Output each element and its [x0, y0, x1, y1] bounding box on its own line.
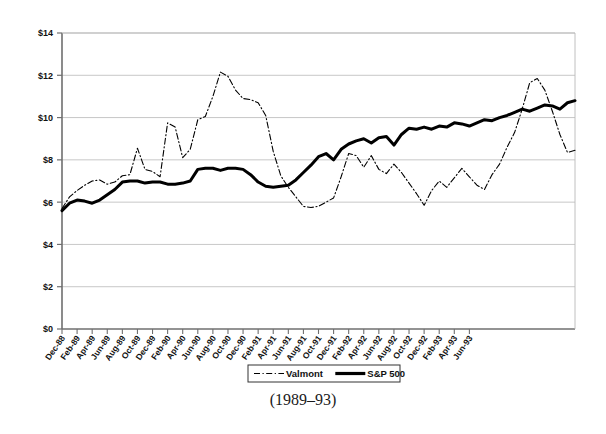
gridlines [62, 33, 575, 287]
series-line-valmont [62, 72, 575, 208]
series-line-s-p-500 [62, 101, 575, 211]
y-tick-label: $10 [38, 113, 53, 123]
data-series [62, 72, 575, 210]
x-axis-ticks: Dec-88Feb-89Apr-89Jun-89Aug-89Oct-89Dec-… [43, 329, 475, 363]
chart-figure: $0$2$4$6$8$10$12$14 Dec-88Feb-89Apr-89Ju… [0, 0, 606, 434]
legend-label-valmont: Valmont [286, 368, 324, 379]
y-tick-label: $4 [43, 240, 53, 250]
stock-performance-line-chart: $0$2$4$6$8$10$12$14 Dec-88Feb-89Apr-89Ju… [0, 0, 606, 434]
legend-label-s-p-500: S&P 500 [367, 368, 405, 379]
y-tick-label: $12 [38, 71, 53, 81]
y-tick-label: $8 [43, 155, 53, 165]
chart-legend: ValmontS&P 500 [248, 365, 405, 382]
y-axis-ticks: $0$2$4$6$8$10$12$14 [38, 28, 62, 334]
y-tick-label: $6 [43, 198, 53, 208]
y-tick-label: $2 [43, 282, 53, 292]
y-tick-label: $0 [43, 324, 53, 334]
figure-caption: (1989–93) [0, 391, 606, 409]
y-tick-label: $14 [38, 28, 53, 38]
